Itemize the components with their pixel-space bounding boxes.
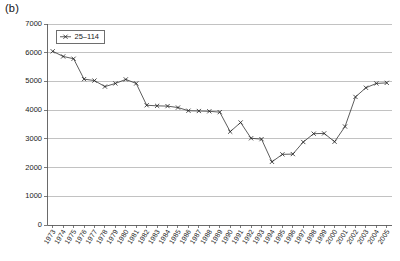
data-point-marker: [301, 140, 305, 144]
x-axis: [53, 225, 387, 228]
y-tick-label: 3000: [25, 134, 42, 143]
x-tick-label: 2005: [376, 228, 390, 245]
chart-legend: 25–114: [57, 31, 105, 44]
data-point-marker: [332, 140, 336, 144]
data-point-marker: [364, 86, 368, 90]
gridlines-group: [48, 24, 393, 225]
y-tick-label: 7000: [25, 19, 42, 28]
y-tick-label: 2000: [25, 163, 42, 172]
data-point-marker: [343, 124, 347, 128]
y-tick-label: 1000: [25, 191, 42, 200]
y-tick-label: 6000: [25, 48, 42, 57]
data-point-marker: [134, 81, 138, 85]
y-axis: [44, 24, 47, 225]
data-point-marker: [270, 160, 274, 164]
x-tick-labels: 1973197419751976197719781979198019811982…: [42, 228, 390, 245]
figure-panel: (b) 01000200030004000500060007000 197319…: [0, 0, 400, 261]
line-chart: 01000200030004000500060007000 1973197419…: [0, 0, 400, 261]
data-point-marker: [353, 95, 357, 99]
y-tick-label: 0: [38, 220, 42, 229]
data-point-marker: [239, 120, 243, 124]
y-tick-labels: 01000200030004000500060007000: [25, 19, 42, 229]
data-point-marker: [124, 77, 128, 81]
legend-label: 25–114: [75, 32, 99, 41]
data-point-marker: [103, 84, 107, 88]
data-point-marker: [113, 81, 117, 85]
data-series-25-114: [51, 49, 389, 164]
y-tick-label: 5000: [25, 76, 42, 85]
y-tick-label: 4000: [25, 105, 42, 114]
series-line: [53, 51, 387, 162]
data-point-marker: [228, 130, 232, 134]
